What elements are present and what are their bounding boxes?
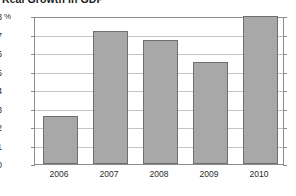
y-axis-tick-mark — [31, 165, 35, 166]
y-axis-tick-label: 6 — [0, 49, 2, 59]
bar-2010[interactable] — [243, 16, 278, 164]
bar-chart-figure: Real Growth in GDP % 0123456782006200720… — [0, 0, 296, 196]
y-axis-tick-label: 8 — [0, 12, 2, 22]
y-axis-tick-mark-right — [283, 165, 287, 166]
y-axis-tick-mark-right — [283, 73, 287, 74]
chart-title: Real Growth in GDP — [2, 0, 104, 5]
x-axis-tick-label: 2008 — [150, 169, 169, 179]
x-axis-tick-label: 2009 — [200, 169, 219, 179]
plot-area — [34, 17, 284, 165]
y-axis-tick-label: 4 — [0, 86, 2, 96]
y-axis-tick-label: 5 — [0, 68, 2, 78]
bars-layer — [35, 17, 283, 164]
y-axis-tick-mark-right — [283, 17, 287, 18]
y-axis-tick-mark-right — [283, 54, 287, 55]
y-axis-unit-label: % — [4, 12, 11, 21]
y-axis-tick-label: 0 — [0, 160, 2, 170]
x-axis-tick-label: 2010 — [250, 169, 269, 179]
y-axis-tick-mark-right — [283, 110, 287, 111]
y-axis-tick-mark-right — [283, 128, 287, 129]
y-axis-tick-label: 2 — [0, 123, 2, 133]
x-axis-tick-label: 2006 — [50, 169, 69, 179]
y-axis-tick-mark-right — [283, 91, 287, 92]
x-axis-tick-label: 2007 — [100, 169, 119, 179]
y-axis-tick-label: 3 — [0, 105, 2, 115]
y-axis-tick-label: 1 — [0, 142, 2, 152]
bar-2006[interactable] — [43, 116, 78, 164]
bar-2008[interactable] — [143, 40, 178, 164]
y-axis-tick-label: 7 — [0, 31, 2, 41]
bar-2009[interactable] — [193, 62, 228, 164]
bar-2007[interactable] — [93, 31, 128, 164]
y-axis-tick-mark-right — [283, 147, 287, 148]
y-axis-tick-mark-right — [283, 36, 287, 37]
